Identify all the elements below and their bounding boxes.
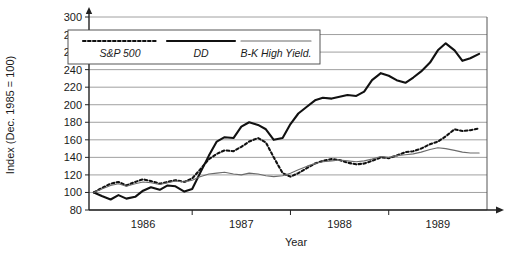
x-tick-label: 1988	[327, 218, 351, 230]
line-chart: 30028026024022020018016014012010080 1986…	[0, 0, 513, 254]
x-tick-label: 1987	[229, 218, 253, 230]
legend-label: S&P 500	[99, 47, 140, 59]
y-tick-label: 120	[64, 169, 82, 181]
y-tick-label: 180	[64, 116, 82, 128]
x-axis-title: Year	[285, 236, 308, 248]
y-tick-label: 220	[64, 81, 82, 93]
legend-label: B-K High Yield.	[241, 47, 312, 59]
y-tick-label: 200	[64, 99, 82, 111]
x-tick-label: 1989	[426, 218, 450, 230]
x-tick-label: 1986	[131, 218, 155, 230]
y-axis-title: Index (Dec. 1985 = 100)	[4, 56, 16, 174]
y-tick-label: 160	[64, 134, 82, 146]
y-tick-label: 100	[64, 186, 82, 198]
chart-container: 30028026024022020018016014012010080 1986…	[0, 0, 513, 254]
legend-label: DD	[193, 47, 209, 59]
y-tick-label: 80	[70, 204, 82, 216]
chart-legend: S&P 500DDB-K High Yield.	[68, 30, 320, 64]
y-tick-label: 140	[64, 151, 82, 163]
y-tick-label: 300	[64, 11, 82, 23]
y-tick-label: 240	[64, 64, 82, 76]
